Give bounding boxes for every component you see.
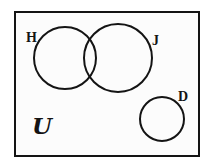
universal-set-label: U [32, 114, 52, 137]
venn-diagram-canvas [0, 0, 212, 165]
set-label-j: J [152, 34, 159, 48]
venn-diagram: H J D U [0, 0, 212, 165]
set-label-h: H [26, 31, 37, 45]
set-label-d: D [178, 90, 188, 104]
